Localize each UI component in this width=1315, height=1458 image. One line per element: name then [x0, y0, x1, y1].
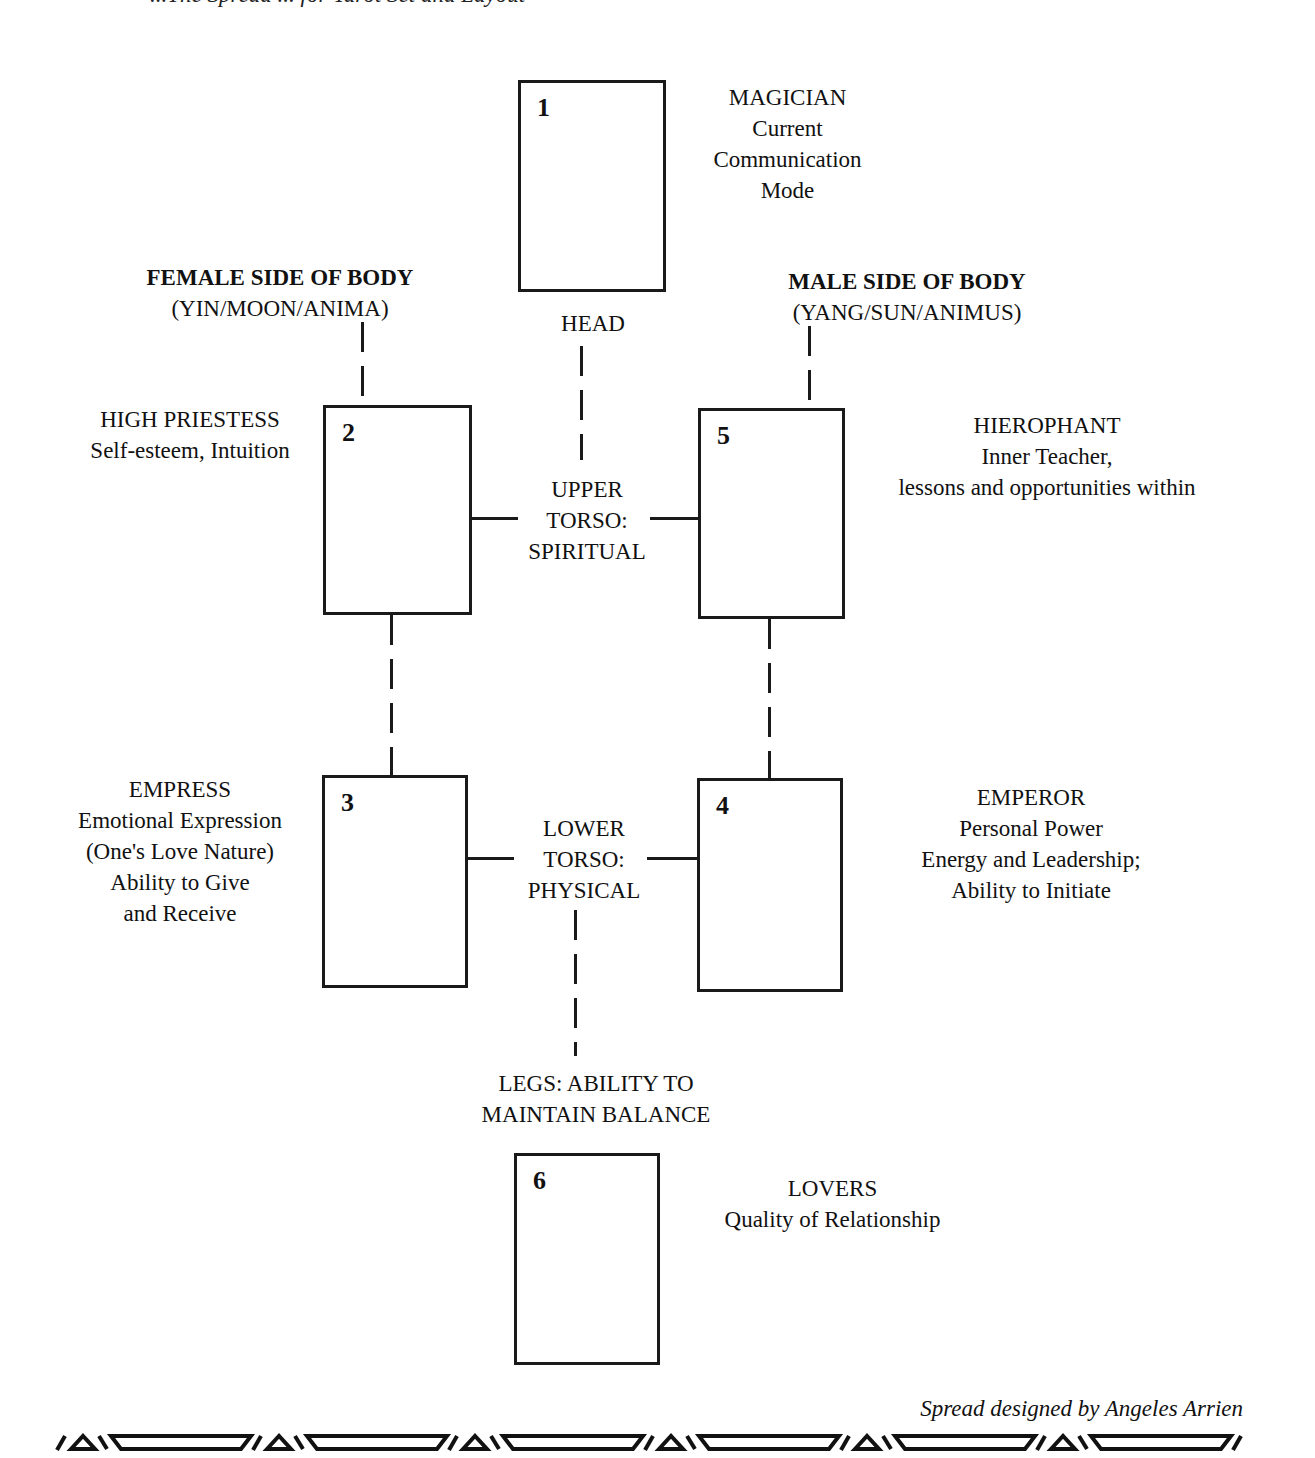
credit-text: Spread designed by Angeles Arrien [920, 1396, 1243, 1422]
card-meaning-line: Emotional Expression [55, 805, 305, 836]
card-number: 1 [537, 93, 550, 123]
card-number: 2 [342, 418, 355, 448]
legs-label: LEGS: ABILITY TO MAINTAIN BALANCE [450, 1068, 742, 1130]
male-side-subtitle: (YANG/SUN/ANIMUS) [752, 297, 1062, 328]
card-title: LOVERS [690, 1173, 975, 1204]
legs-connector-dashed [574, 910, 577, 1056]
tribal-border-pattern-icon [55, 1432, 1255, 1454]
header-cut-off-text: ...The Spread ... for Tarot Set and Layo… [150, 0, 525, 8]
card-title: MAGICIAN [690, 82, 885, 113]
male-side-label: MALE SIDE OF BODY (YANG/SUN/ANIMUS) [752, 266, 1062, 328]
head-region-label: HEAD [540, 308, 646, 339]
card-meaning-line: Ability to Give [55, 867, 305, 898]
male-connector-dashed [808, 326, 811, 410]
card-meaning-line: and Receive [55, 898, 305, 929]
card-title: EMPRESS [55, 774, 305, 805]
card-meaning-line: lessons and opportunities within [862, 472, 1232, 503]
card-title: EMPEROR [886, 782, 1176, 813]
card-position-2: 2 [323, 405, 472, 615]
card-1-label: MAGICIAN Current Communication Mode [690, 82, 885, 206]
card-title: HIEROPHANT [862, 410, 1232, 441]
card-2-label: HIGH PRIESTESS Self-esteem, Intuition [62, 404, 318, 466]
card-meaning-line: (One's Love Nature) [55, 836, 305, 867]
region-line: MAINTAIN BALANCE [450, 1099, 742, 1130]
lower-torso-label: LOWER TORSO: PHYSICAL [502, 813, 666, 906]
card-position-4: 4 [697, 778, 843, 992]
card-number: 5 [717, 421, 730, 451]
card-meaning-line: Inner Teacher, [862, 441, 1232, 472]
card-meaning-line: Ability to Initiate [886, 875, 1176, 906]
upper-torso-label: UPPER TORSO: SPIRITUAL [505, 474, 669, 567]
card-position-5: 5 [698, 408, 845, 619]
card-meaning-line: Energy and Leadership; [886, 844, 1176, 875]
card-position-1: 1 [518, 80, 666, 292]
card-6-label: LOVERS Quality of Relationship [690, 1173, 975, 1235]
card-meaning-line: Personal Power [886, 813, 1176, 844]
region-line: UPPER [505, 474, 669, 505]
female-side-subtitle: (YIN/MOON/ANIMA) [110, 293, 450, 324]
card2-card3-connector-dashed [390, 615, 393, 775]
region-line: LOWER [502, 813, 666, 844]
region-line: PHYSICAL [502, 875, 666, 906]
card-3-label: EMPRESS Emotional Expression (One's Love… [55, 774, 305, 929]
region-line: TORSO: [505, 505, 669, 536]
region-line: SPIRITUAL [505, 536, 669, 567]
card-number: 4 [716, 791, 729, 821]
female-connector-dashed [361, 322, 364, 406]
card-title: HIGH PRIESTESS [62, 404, 318, 435]
male-side-title: MALE SIDE OF BODY [752, 266, 1062, 297]
card-number: 3 [341, 788, 354, 818]
card-meaning-line: Self-esteem, Intuition [62, 435, 318, 466]
female-side-title: FEMALE SIDE OF BODY [110, 262, 450, 293]
female-side-label: FEMALE SIDE OF BODY (YIN/MOON/ANIMA) [110, 262, 450, 324]
card-4-label: EMPEROR Personal Power Energy and Leader… [886, 782, 1176, 906]
upper-torso-connector-right [650, 517, 698, 520]
card-meaning-line: Current [690, 113, 885, 144]
card-position-3: 3 [322, 775, 468, 988]
card-number: 6 [533, 1166, 546, 1196]
region-line: LEGS: ABILITY TO [450, 1068, 742, 1099]
head-connector-dashed [580, 346, 583, 460]
card-5-label: HIEROPHANT Inner Teacher, lessons and op… [862, 410, 1232, 503]
region-line: TORSO: [502, 844, 666, 875]
card5-card4-connector-dashed [768, 619, 771, 779]
card-position-6: 6 [514, 1153, 660, 1365]
card-meaning-line: Communication [690, 144, 885, 175]
lower-torso-connector-right [647, 857, 697, 860]
card-meaning-line: Mode [690, 175, 885, 206]
card-meaning-line: Quality of Relationship [690, 1204, 975, 1235]
